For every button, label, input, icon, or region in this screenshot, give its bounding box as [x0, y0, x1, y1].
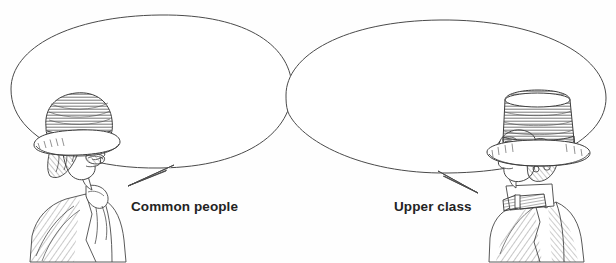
upper-class-coat — [489, 200, 584, 262]
illustration-canvas: Common people Upper class — [0, 0, 616, 263]
label-upper-class: Upper class — [394, 199, 472, 214]
common-people-jacket — [30, 194, 126, 262]
label-common-people: Common people — [131, 199, 238, 214]
scanned-illustration — [0, 0, 616, 263]
